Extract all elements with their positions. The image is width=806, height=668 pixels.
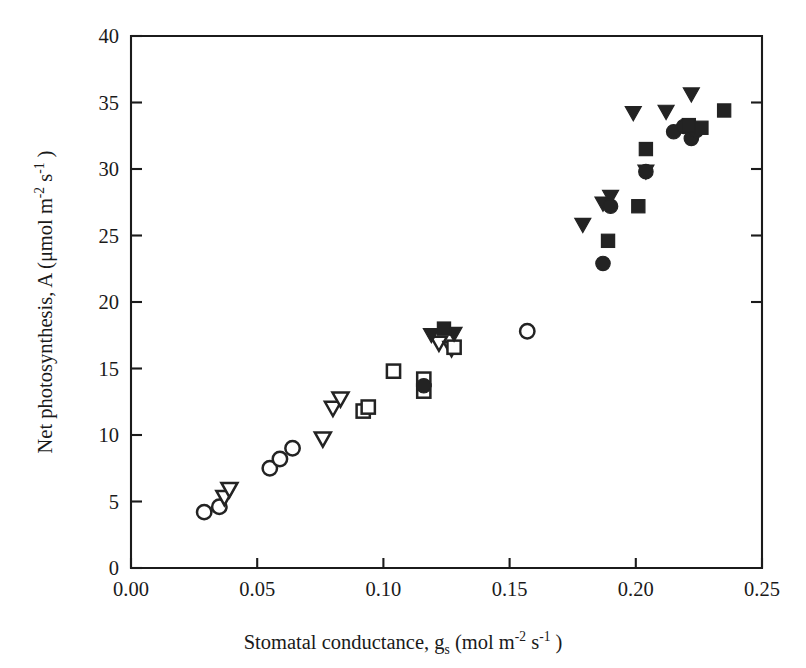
data-point-open-square bbox=[362, 400, 375, 413]
scatter-plot-figure: 0.000.050.100.150.200.25 051015202530354… bbox=[0, 0, 806, 668]
x-tick-label: 0.00 bbox=[113, 578, 149, 600]
data-point-filled-triangle-down bbox=[625, 107, 641, 121]
y-tick-label: 15 bbox=[99, 358, 120, 380]
data-point-open-triangle-down bbox=[315, 432, 331, 446]
data-point-open-circle bbox=[285, 441, 299, 455]
x-axis-ticks bbox=[131, 558, 762, 568]
x-tick-label: 0.25 bbox=[744, 578, 780, 600]
data-point-filled-square bbox=[695, 121, 708, 134]
data-point-filled-square bbox=[632, 200, 645, 213]
data-point-filled-circle bbox=[596, 256, 610, 270]
data-point-filled-circle bbox=[603, 199, 617, 213]
x-axis-title: Stomatal conductance, gs (mol m-2 s-1 ) bbox=[0, 629, 806, 658]
data-point-filled-triangle-down bbox=[658, 105, 674, 119]
x-tick-label: 0.05 bbox=[239, 578, 275, 600]
x-tick-label: 0.15 bbox=[492, 578, 528, 600]
x-axis-tick-labels: 0.000.050.100.150.200.25 bbox=[113, 578, 780, 600]
data-point-markers bbox=[197, 88, 731, 519]
x-tick-label: 0.10 bbox=[365, 578, 401, 600]
data-point-filled-circle bbox=[639, 164, 653, 178]
data-point-filled-triangle-down bbox=[683, 88, 699, 102]
y-tick-label: 40 bbox=[99, 25, 120, 47]
y-axis-title: Net photosynthesis, A (μmol m-2 s-1 ) bbox=[22, 36, 58, 568]
data-point-filled-square bbox=[718, 104, 731, 117]
plot-canvas: 0.000.050.100.150.200.25 051015202530354… bbox=[0, 0, 806, 668]
y-tick-label: 30 bbox=[99, 158, 120, 180]
data-point-open-circle bbox=[197, 505, 211, 519]
y-tick-label: 0 bbox=[109, 557, 119, 579]
data-point-open-circle bbox=[273, 452, 287, 466]
y-tick-label: 5 bbox=[109, 491, 119, 513]
y-tick-label: 10 bbox=[99, 424, 120, 446]
y-axis-tick-labels: 0510152025303540 bbox=[99, 25, 120, 579]
data-point-filled-triangle-down bbox=[575, 218, 591, 232]
data-point-filled-square bbox=[601, 234, 614, 247]
data-point-filled-square bbox=[682, 119, 695, 132]
data-point-open-square bbox=[387, 365, 400, 378]
x-tick-label: 0.20 bbox=[618, 578, 654, 600]
data-point-open-circle bbox=[520, 324, 534, 338]
y-tick-label: 35 bbox=[99, 92, 120, 114]
y-tick-label: 25 bbox=[99, 225, 120, 247]
data-point-filled-square bbox=[639, 142, 652, 155]
y-tick-label: 20 bbox=[99, 291, 120, 313]
data-point-filled-circle bbox=[417, 379, 431, 393]
data-point-filled-square bbox=[437, 322, 450, 335]
